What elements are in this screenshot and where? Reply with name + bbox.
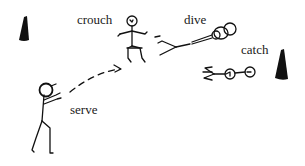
- serve-label: serve: [70, 103, 97, 116]
- cone-left-icon: [19, 16, 29, 41]
- catch-figure-icon: [203, 67, 255, 80]
- drill-diagram: crouch dive catch serve: [0, 0, 305, 166]
- crouch-label: crouch: [77, 13, 112, 26]
- diagram-drawing: [0, 0, 305, 166]
- dive-figure-icon: [155, 23, 236, 55]
- dive-label: dive: [184, 13, 206, 26]
- serve-path-arrow-icon: [70, 65, 121, 92]
- crouch-figure-icon: [118, 16, 147, 62]
- serve-figure-icon: [32, 84, 61, 154]
- catch-label: catch: [241, 43, 268, 56]
- cone-right-icon: [275, 49, 288, 80]
